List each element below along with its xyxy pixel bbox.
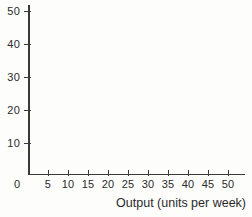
- origin-label: 0: [14, 179, 20, 190]
- x-tick-label-20: 20: [102, 179, 115, 190]
- x-tick-30: [148, 170, 149, 176]
- y-tick-20: [24, 110, 31, 111]
- x-tick-15: [88, 170, 89, 176]
- y-tick-label-50: 50: [7, 6, 20, 17]
- x-tick-10: [68, 170, 69, 176]
- y-tick-label-40: 40: [7, 39, 20, 50]
- y-tick-50: [24, 11, 31, 12]
- x-tick-20: [108, 170, 109, 176]
- y-tick-label-10: 10: [7, 138, 20, 149]
- x-tick-label-25: 25: [122, 179, 135, 190]
- x-tick-35: [168, 170, 169, 176]
- x-tick-label-45: 45: [202, 179, 215, 190]
- x-tick-50: [228, 170, 229, 176]
- x-tick-25: [128, 170, 129, 176]
- x-tick-label-35: 35: [162, 179, 175, 190]
- x-tick-label-40: 40: [182, 179, 195, 190]
- x-tick-label-15: 15: [82, 179, 95, 190]
- x-tick-label-10: 10: [62, 179, 75, 190]
- chart-figure: 50 40 30 20 10 0 5 10 15 20 25 30 35 40 …: [0, 0, 252, 217]
- y-tick-40: [24, 44, 31, 45]
- y-tick-label-20: 20: [7, 105, 20, 116]
- x-axis-title: Output (units per week): [116, 196, 246, 210]
- plot-area: [30, 5, 245, 174]
- y-tick-10: [24, 143, 31, 144]
- x-tick-5: [48, 170, 49, 176]
- x-tick-label-30: 30: [142, 179, 155, 190]
- x-tick-label-5: 5: [45, 179, 51, 190]
- y-tick-label-30: 30: [7, 72, 20, 83]
- x-tick-45: [208, 170, 209, 176]
- x-tick-label-50: 50: [222, 179, 235, 190]
- x-axis-line: [28, 174, 245, 176]
- y-tick-30: [24, 77, 31, 78]
- x-tick-40: [188, 170, 189, 176]
